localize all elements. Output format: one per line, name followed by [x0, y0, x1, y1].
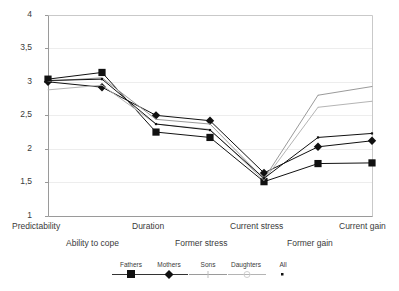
- data-point: [372, 101, 373, 102]
- x-axis-label-current-stress: Current stress: [230, 222, 283, 231]
- series-all: [47, 78, 373, 179]
- data-point: [368, 159, 375, 166]
- data-point: [206, 134, 213, 141]
- x-axis-label-duration: Duration: [132, 222, 164, 231]
- legend-label-fathers: Fathers: [110, 261, 152, 269]
- x-axis-label-current-gain: Current gain: [339, 222, 386, 231]
- data-point: [209, 129, 211, 131]
- y-tick-marks: [45, 16, 48, 217]
- series-sons: [48, 77, 373, 179]
- data-point: [101, 78, 103, 80]
- x-axis-label-former-stress: Former stress: [175, 239, 227, 248]
- x-axis-label-ability-to-cope: Ability to cope: [66, 239, 119, 248]
- series-line: [48, 85, 372, 180]
- series-daughters: [48, 85, 373, 181]
- data-point: [98, 69, 105, 76]
- series-mothers: [44, 78, 376, 178]
- x-axis-label-former-gain: Former gain: [287, 239, 333, 248]
- data-point: [152, 128, 159, 135]
- data-point: [368, 137, 376, 145]
- data-point: [372, 86, 373, 87]
- data-point: [318, 95, 319, 96]
- data-point: [48, 89, 49, 90]
- data-point: [263, 177, 265, 179]
- data-point: [47, 79, 49, 81]
- series-line: [48, 72, 372, 181]
- legend-label-mothers: Mothers: [148, 261, 190, 269]
- line-chart: 4 3,5 3 2,5 2 1,5 1: [0, 0, 399, 291]
- data-point: [152, 111, 160, 119]
- data-point: [156, 119, 157, 120]
- data-point: [210, 124, 211, 125]
- data-point: [102, 85, 103, 86]
- legend-label-all: All: [262, 261, 304, 269]
- series-layer: [44, 69, 376, 185]
- x-axis-label-predictability: Predictability: [12, 222, 60, 231]
- gridlines: [48, 49, 372, 183]
- data-point: [371, 132, 373, 134]
- data-point: [318, 107, 319, 108]
- data-point: [314, 160, 321, 167]
- data-point: [317, 136, 319, 138]
- series-line: [48, 82, 372, 173]
- data-point: [155, 123, 157, 125]
- data-point: [264, 180, 265, 181]
